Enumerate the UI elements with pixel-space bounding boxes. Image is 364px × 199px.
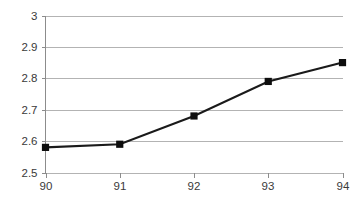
- data-point-marker: 90: 2.58: [42, 144, 49, 151]
- y-axis-label: 2.6: [22, 135, 38, 147]
- x-axis-label: 90: [40, 180, 53, 192]
- line-chart: 32.92.82.72.62.5 9091929394 90: 2.5891: …: [0, 0, 364, 199]
- y-axis-label: 2.8: [22, 72, 38, 84]
- chart-canvas: 32.92.82.72.62.5 9091929394 90: 2.5891: …: [0, 0, 364, 199]
- data-point-marker: 92: 2.68: [190, 112, 197, 119]
- x-axis-label: 93: [262, 180, 275, 192]
- y-axis-label: 2.5: [22, 167, 38, 179]
- y-axis-label: 2.9: [22, 41, 38, 53]
- data-point-marker: 94: 2.85: [339, 59, 346, 66]
- data-point-marker: 91: 2.59: [116, 141, 123, 148]
- x-axis-label: 92: [188, 180, 201, 192]
- x-axis-label: 91: [114, 180, 127, 192]
- y-axis-label: 3: [31, 10, 37, 22]
- data-point-marker: 93: 2.79: [265, 78, 272, 85]
- y-axis-label: 2.7: [22, 104, 38, 116]
- x-axis-label: 94: [337, 180, 350, 192]
- chart-background: [0, 0, 364, 199]
